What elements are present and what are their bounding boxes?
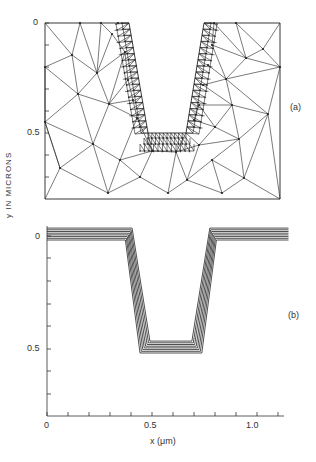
panel-a-label: (a) xyxy=(290,102,301,112)
figure-canvas xyxy=(0,0,316,462)
panel-b-ytick-0: 0 xyxy=(35,231,40,241)
panel-b-xtick-1-0: 1.0 xyxy=(246,420,259,430)
mesh-panel-a xyxy=(44,22,281,199)
panel-b-label: (b) xyxy=(288,310,299,320)
panel-b-xtick-0: 0 xyxy=(44,420,49,430)
profiles-panel-b xyxy=(47,228,289,353)
x-axis-label: x (μm) xyxy=(150,436,176,446)
axes xyxy=(45,23,284,416)
panel-b-xtick-0-5: 0.5 xyxy=(144,420,157,430)
panel-a-ytick-0: 0 xyxy=(33,17,38,27)
panel-a-ytick-0-5: 0.5 xyxy=(27,127,40,137)
panel-b-ytick-0-5: 0.5 xyxy=(27,343,40,353)
y-axis-label: y IN MICRONS xyxy=(4,152,13,218)
